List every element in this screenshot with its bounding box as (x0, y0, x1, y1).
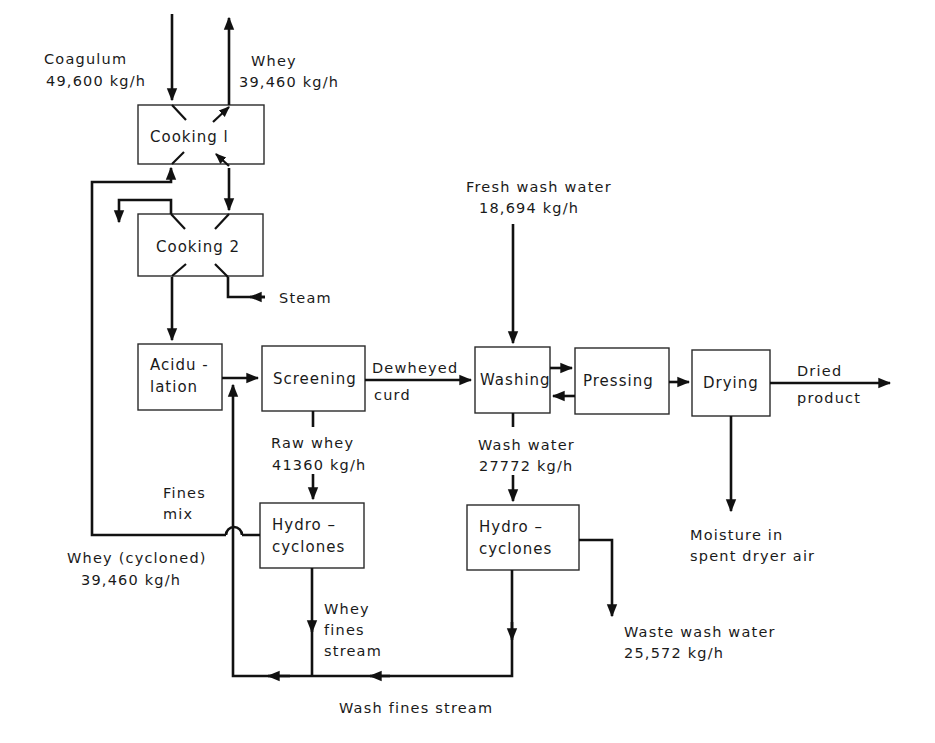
dried-product-label-2: product (797, 390, 861, 406)
cooking-1-label: Cooking l (150, 128, 229, 146)
hydrocyclones-wash-label-2: cyclones (479, 540, 552, 558)
cooking-2-label: Cooking 2 (156, 238, 240, 256)
hydrocyclones-whey-box (260, 503, 364, 568)
dried-product-label-1: Dried (797, 363, 842, 379)
dewheyed-curd-label-1: Dewheyed (372, 360, 458, 376)
dewheyed-curd-label-2: curd (374, 387, 411, 403)
acidulation-label-2: lation (150, 378, 198, 396)
drying-label: Drying (703, 374, 759, 392)
fines-mix-label-2: mix (163, 506, 193, 522)
acidulation-label-1: Acidu - (150, 356, 209, 374)
whey-out-name: Whey (251, 53, 297, 69)
process-flow-diagram: Cooking l Cooking 2 Acidu - lation Scree… (0, 0, 935, 743)
fresh-wash-water-rate: 18,694 kg/h (479, 200, 579, 216)
screening-label: Screening (273, 370, 357, 388)
hydrocyclones-whey-label-2: cyclones (272, 538, 345, 556)
coagulum-rate: 49,600 kg/h (46, 73, 146, 89)
coagulum-name: Coagulum (44, 51, 127, 67)
hydrocyclones-wash-label-1: Hydro – (479, 518, 543, 536)
waste-wash-water-name: Waste wash water (624, 624, 776, 640)
whey-fines-stream-label-2: fines (324, 622, 365, 638)
whey-cycloned-name: Whey (cycloned) (67, 550, 207, 566)
moisture-label-2: spent dryer air (690, 548, 815, 564)
steam-line (228, 277, 265, 297)
wash-fines-stream-label: Wash fines stream (339, 700, 493, 716)
waste-wash-water-rate: 25,572 kg/h (624, 645, 724, 661)
whey-out-rate: 39,460 kg/h (239, 74, 339, 90)
fines-mix-label-1: Fines (163, 485, 206, 501)
washing-label: Washing (480, 371, 551, 389)
raw-whey-name: Raw whey (271, 435, 354, 451)
whey-fines-stream-label-3: stream (324, 643, 382, 659)
waste-wash-water-line (579, 540, 612, 616)
steam-label: Steam (279, 290, 332, 306)
wash-water-rate: 27772 kg/h (479, 458, 573, 474)
pressing-label: Pressing (583, 372, 654, 390)
fresh-wash-water-name: Fresh wash water (466, 179, 612, 195)
wash-water-name: Wash water (478, 437, 575, 453)
acidulation-box (138, 344, 222, 410)
raw-whey-rate: 41360 kg/h (272, 457, 366, 473)
wash-fines-stream-line (233, 570, 512, 676)
whey-cycloned-rate: 39,460 kg/h (81, 572, 181, 588)
moisture-label-1: Moisture in (690, 527, 783, 543)
hydrocyclones-wash-box (467, 505, 579, 570)
whey-fines-stream-label-1: Whey (324, 601, 370, 617)
hydrocyclones-whey-label-1: Hydro – (272, 516, 336, 534)
